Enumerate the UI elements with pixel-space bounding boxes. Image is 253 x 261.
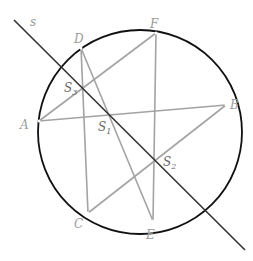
- segment-d-e: [81, 48, 153, 221]
- label-s1: S1: [98, 120, 111, 136]
- label-s: s: [30, 15, 36, 29]
- label-b: B: [229, 98, 239, 112]
- label-s2: S2: [163, 155, 176, 171]
- segment-f-e: [153, 33, 156, 221]
- circle: [38, 30, 242, 234]
- label-e: E: [145, 228, 155, 242]
- pascal-diagram: s A B C D E F S1 S2 S3: [0, 0, 253, 261]
- label-c: C: [74, 217, 83, 231]
- segment-b-c: [88, 105, 226, 213]
- label-a: A: [19, 118, 29, 132]
- line-s: [14, 20, 245, 250]
- segment-a-b: [39, 105, 226, 121]
- segment-d-c: [81, 48, 88, 213]
- segment-a-f: [39, 33, 156, 121]
- label-s3: S3: [64, 81, 77, 97]
- label-d: D: [73, 32, 84, 46]
- label-f: F: [149, 17, 159, 31]
